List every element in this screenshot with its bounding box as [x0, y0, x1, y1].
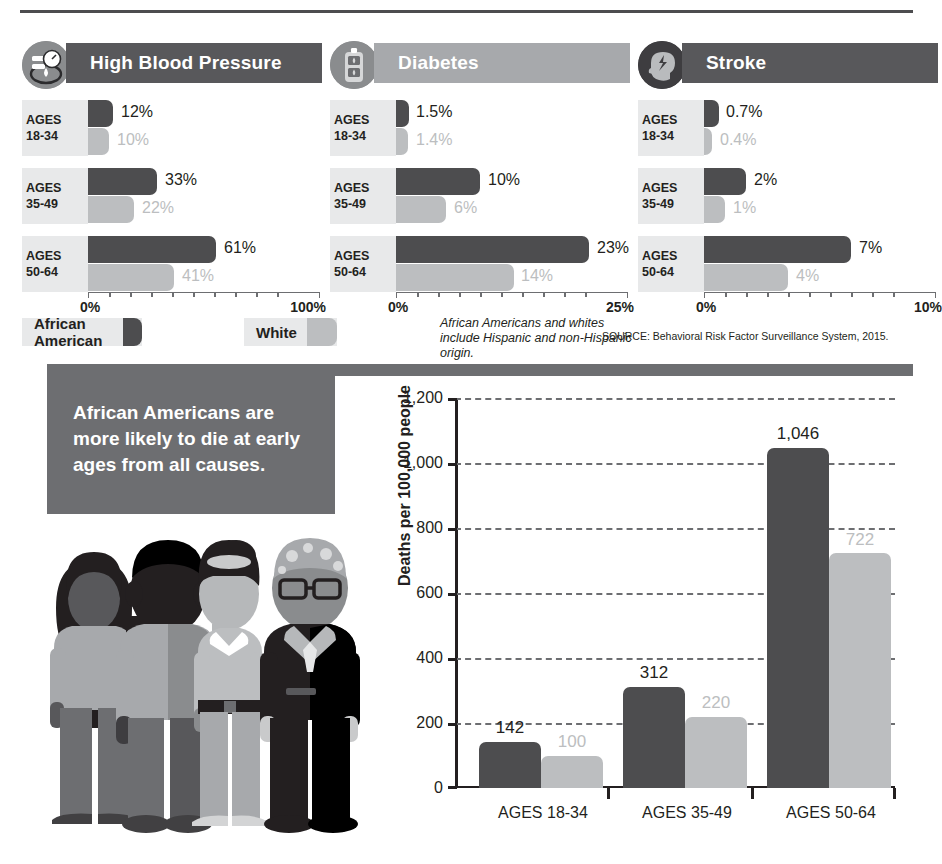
- bar-value-white: 1%: [733, 199, 756, 217]
- legend-label-african-american: African American: [22, 315, 123, 349]
- bar-white: [704, 128, 712, 155]
- panel-title: Diabetes: [398, 52, 479, 74]
- bar-pair: 7% 4%: [704, 236, 938, 292]
- bar-value-african-american: 33%: [165, 171, 197, 189]
- column-african-american: [479, 742, 541, 788]
- age-group-row: AGES50-64 61% 41%: [22, 236, 322, 292]
- panel-header: Stroke: [638, 38, 938, 88]
- brain-stroke-icon: [638, 41, 686, 89]
- blood-pressure-cuff-icon: [22, 41, 70, 89]
- column-white: [541, 756, 603, 789]
- bar-pair: 61% 41%: [88, 236, 322, 292]
- bar-value-white: 14%: [521, 267, 553, 285]
- bar-value-african-american: 2%: [754, 171, 777, 189]
- bar-white: [88, 128, 109, 155]
- panel-axis: 0% 100%: [88, 292, 320, 314]
- axis-line: [88, 292, 320, 298]
- deaths-column-chart: Deaths per 100,000 people 1,200 1,000 80…: [380, 376, 920, 856]
- axis-line: [704, 292, 936, 298]
- bar-value-african-american: 7%: [859, 239, 882, 257]
- age-label: AGES18-34: [24, 112, 86, 144]
- glucose-meter-icon: [330, 41, 378, 89]
- person-man-2: [260, 538, 360, 833]
- age-label: AGES18-34: [332, 112, 394, 144]
- y-tick-label: 1,200: [403, 389, 443, 407]
- column-value-white: 100: [541, 732, 603, 752]
- callout-text: African Americans are more likely to die…: [47, 400, 335, 478]
- column-african-american: [623, 687, 685, 788]
- y-tick-label: 400: [416, 649, 443, 667]
- bar-white: [704, 264, 788, 291]
- source-text: SOURCE: Behavioral Risk Factor Surveilla…: [602, 330, 932, 342]
- column-white: [829, 553, 891, 788]
- bar-value-african-american: 23%: [597, 239, 629, 257]
- age-label: AGES18-34: [640, 112, 702, 144]
- bar-white: [704, 196, 725, 223]
- column-group: 1,046 722: [767, 398, 895, 788]
- legend-item-white: White: [244, 318, 337, 346]
- age-label: AGES50-64: [640, 248, 702, 280]
- age-label: AGES35-49: [24, 180, 86, 212]
- bar-white: [396, 264, 514, 291]
- age-label: AGES35-49: [640, 180, 702, 212]
- bar-value-african-american: 12%: [121, 103, 153, 121]
- axis-line: [396, 292, 628, 298]
- axis-max-label: 25%: [606, 299, 634, 315]
- panel-title: High Blood Pressure: [90, 52, 282, 74]
- callout-box: African Americans are more likely to die…: [47, 364, 335, 514]
- column-value-african-american: 1,046: [767, 424, 829, 444]
- x-tick-label: AGES 18-34: [479, 804, 607, 822]
- bar-value-african-american: 10%: [488, 171, 520, 189]
- panel-title-bar: High Blood Pressure: [66, 43, 322, 83]
- age-group-row: AGES18-34 1.5% 1.4%: [330, 100, 630, 156]
- panel-header: Diabetes: [330, 38, 630, 88]
- bar-value-white: 1.4%: [416, 131, 452, 149]
- column-value-white: 220: [685, 693, 747, 713]
- y-axis-title: Deaths per 100,000 people: [396, 385, 414, 586]
- age-group-row: AGES35-49 33% 22%: [22, 168, 322, 224]
- column-group: 142 100: [479, 398, 607, 788]
- bar-value-white: 22%: [142, 199, 174, 217]
- bar-white: [88, 264, 174, 291]
- bar-value-white: 6%: [454, 199, 477, 217]
- bar-african-american: [704, 236, 851, 263]
- panel-title-bar: Diabetes: [374, 43, 630, 83]
- bar-value-african-american: 61%: [224, 239, 256, 257]
- bar-white: [396, 196, 446, 223]
- y-tick-label: 800: [416, 519, 443, 537]
- y-tick-label: 0: [434, 779, 443, 797]
- axis-min-label: 0%: [388, 299, 408, 315]
- bar-african-american: [704, 168, 746, 195]
- bottom-section: African Americans are more likely to die…: [0, 360, 933, 864]
- bar-value-african-american: 1.5%: [416, 103, 452, 121]
- bar-pair: 1.5% 1.4%: [396, 100, 630, 156]
- column-white: [685, 717, 747, 789]
- bar-pair: 10% 6%: [396, 168, 630, 224]
- age-group-row: AGES35-49 10% 6%: [330, 168, 630, 224]
- panel-title: Stroke: [706, 52, 766, 74]
- age-label: AGES50-64: [332, 248, 394, 280]
- age-group-row: AGES50-64 7% 4%: [638, 236, 938, 292]
- bar-pair: 0.7% 0.4%: [704, 100, 938, 156]
- axis-max-label: 10%: [914, 299, 942, 315]
- person-woman-2: [192, 540, 268, 826]
- column-african-american: [767, 448, 829, 788]
- panel-high-blood-pressure: High Blood Pressure AGES18-34 12% 10%: [22, 38, 322, 313]
- chart-plot-area: 1,200 1,000 800 600 400 200 0: [455, 398, 895, 788]
- age-label: AGES50-64: [24, 248, 86, 280]
- legend-swatch-white: [307, 318, 337, 346]
- bar-value-white: 4%: [796, 267, 819, 285]
- disease-panels: High Blood Pressure AGES18-34 12% 10%: [0, 38, 933, 313]
- panel-header: High Blood Pressure: [22, 38, 322, 88]
- bar-pair: 12% 10%: [88, 100, 322, 156]
- panel-stroke: Stroke AGES18-34 0.7% 0.4% AGES35-49: [638, 38, 938, 313]
- legend-item-african-american: African American: [22, 318, 142, 346]
- bar-pair: 23% 14%: [396, 236, 630, 292]
- top-divider-rule: [20, 10, 913, 13]
- y-tick-label: 1,000: [403, 454, 443, 472]
- bar-white: [88, 196, 134, 223]
- axis-max-label: 100%: [290, 299, 326, 315]
- panel-axis: 0% 10%: [704, 292, 936, 314]
- x-tick-label: AGES 35-49: [623, 804, 751, 822]
